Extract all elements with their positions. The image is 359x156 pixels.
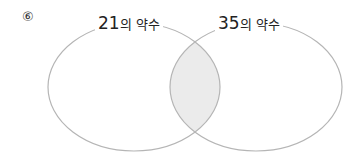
set-a-suffix: 의 약수 [120,17,160,32]
set-a-number: 21 [98,13,120,33]
set-b-label: 35의 약수 [215,13,283,35]
venn-diagram [0,0,359,156]
set-b-number: 35 [218,13,240,33]
set-b-suffix: 의 약수 [240,17,280,32]
set-a-label: 21의 약수 [95,13,163,35]
